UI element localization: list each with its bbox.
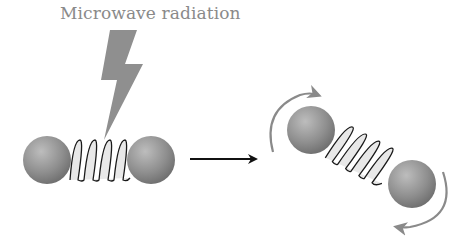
lightning-bolt-icon	[101, 30, 143, 140]
atom-bottom-sphere	[388, 160, 436, 208]
molecule-after	[287, 106, 436, 208]
spring-icon-tilted	[325, 123, 399, 188]
atom-left-sphere	[23, 136, 71, 184]
molecule-before	[23, 136, 175, 184]
diagram-canvas	[0, 0, 466, 248]
atom-top-sphere	[287, 106, 335, 154]
spring-icon	[70, 140, 130, 181]
atom-right-sphere	[127, 136, 175, 184]
